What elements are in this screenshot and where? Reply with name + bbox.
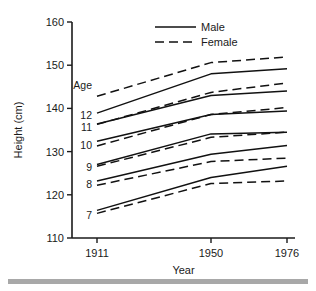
- y-axis-tick-label: 140: [46, 102, 64, 114]
- x-axis-tick-label: 1976: [275, 247, 299, 259]
- series-line-age-8-male: [97, 146, 287, 181]
- series-line-age-8-female: [97, 158, 287, 185]
- legend-label-female: Female: [201, 36, 238, 48]
- age-group-label-11: 11: [81, 121, 92, 133]
- y-axis-tick-label: 120: [46, 189, 64, 201]
- age-group-label-9: 9: [86, 161, 92, 173]
- height-by-year-line-chart: 110120130140150160191119501976YearHeight…: [0, 0, 316, 291]
- age-group-header: Age: [73, 79, 92, 91]
- x-axis-tick-label: 1950: [199, 247, 223, 259]
- series-line-age-10-male: [97, 111, 287, 141]
- age-group-label-7: 7: [86, 209, 92, 221]
- y-axis-tick-label: 130: [46, 146, 64, 158]
- age-group-label-12: 12: [80, 109, 92, 121]
- x-axis-title: Year: [172, 264, 195, 276]
- chart-figure: 110120130140150160191119501976YearHeight…: [0, 0, 316, 291]
- y-axis-tick-label: 110: [46, 232, 64, 244]
- age-group-label-10: 10: [80, 139, 92, 151]
- series-line-age-7-female: [97, 181, 287, 213]
- age-group-label-8: 8: [86, 178, 92, 190]
- legend-label-male: Male: [201, 21, 225, 33]
- y-axis-tick-label: 150: [46, 59, 64, 71]
- series-line-age-12-male: [97, 69, 287, 113]
- series-line-age-10-female: [97, 108, 287, 146]
- x-axis-tick-label: 1911: [85, 247, 109, 259]
- y-axis-tick-label: 160: [46, 16, 64, 28]
- y-axis-title: Height (cm): [12, 102, 24, 159]
- footer-divider-bar: [8, 279, 308, 284]
- series-line-age-12-female: [97, 57, 287, 96]
